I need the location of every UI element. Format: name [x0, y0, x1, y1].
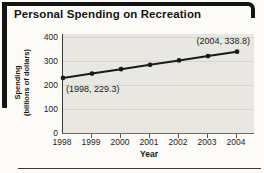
x-tick-label: 2004: [222, 137, 250, 147]
data-point: [235, 49, 240, 54]
y-axis-label: Spending (billions of dollars): [13, 33, 34, 133]
point-annotation: (1998, 229.3): [66, 84, 120, 94]
x-tick-mark: [236, 134, 237, 138]
y-tick-label: 300: [34, 56, 58, 66]
data-point: [90, 71, 95, 76]
data-point: [61, 76, 66, 81]
plot-area: (1998, 229.3)(2004, 338.8): [62, 34, 254, 134]
x-tick-mark: [207, 134, 208, 138]
point-annotation: (2004, 338.8): [196, 36, 250, 46]
x-axis-label: Year: [129, 149, 169, 159]
x-tick-label: 1999: [77, 137, 105, 147]
x-tick-mark: [91, 134, 92, 138]
data-point: [148, 62, 153, 67]
x-tick-mark: [178, 134, 179, 138]
x-tick-mark: [149, 134, 150, 138]
data-point: [177, 58, 182, 63]
x-tick-label: 2001: [135, 137, 163, 147]
x-tick-label: 2003: [193, 137, 221, 147]
y-axis-label-line2: (billions of dollars): [22, 33, 31, 133]
x-tick-label: 2000: [106, 137, 134, 147]
y-axis-label-line1: Spending: [13, 33, 22, 133]
data-point: [119, 67, 124, 72]
x-tick-label: 1998: [48, 137, 76, 147]
x-tick-mark: [120, 134, 121, 138]
y-tick-label: 100: [34, 104, 58, 114]
y-tick-label: 200: [34, 80, 58, 90]
bracket-decoration-left: [2, 2, 7, 108]
y-tick-label: 400: [34, 32, 58, 42]
data-point: [206, 54, 211, 59]
chart-title: Personal Spending on Recreation: [14, 8, 201, 20]
bottom-divider-rule: [18, 168, 261, 169]
x-tick-label: 2002: [164, 137, 192, 147]
